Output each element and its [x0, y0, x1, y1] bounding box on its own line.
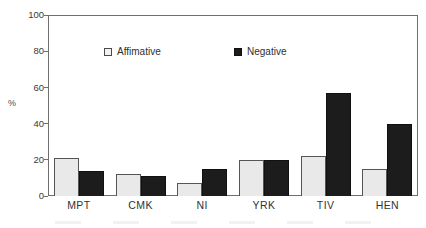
legend-entry-negative: Negative [234, 47, 286, 57]
x-axis-label-mpt: MPT [48, 199, 110, 211]
bar-group-tiv [295, 15, 357, 196]
scan-artifact [55, 221, 395, 224]
bar-affirmative-yrk [239, 160, 264, 196]
legend-label-negative: Negative [247, 47, 286, 57]
bar-negative-tiv [326, 93, 351, 196]
x-axis-label-tiv: TIV [295, 199, 357, 211]
bars-layer [48, 15, 418, 196]
legend-entry-affirmative: Affimative [104, 47, 161, 57]
x-axis-label-hen: HEN [357, 199, 419, 211]
x-axis-label-cmk: CMK [110, 199, 172, 211]
bar-group-ni [171, 15, 233, 196]
bar-affirmative-ni [177, 183, 202, 196]
legend-label-affirmative: Affimative [117, 47, 161, 57]
bar-group-yrk [233, 15, 295, 196]
x-axis-label-ni: NI [171, 199, 233, 211]
x-axis-labels: MPT CMK NI YRK TIV HEN [48, 199, 418, 217]
bar-chart-figure: % 100 80 60 40 20 0 [0, 0, 426, 228]
bar-group-cmk [110, 15, 172, 196]
bar-group-hen [357, 15, 419, 196]
chart-legend: Affimative Negative [104, 47, 324, 63]
legend-swatch-affirmative-icon [104, 48, 112, 56]
bar-affirmative-mpt [54, 158, 79, 196]
legend-swatch-negative-icon [234, 48, 242, 56]
bar-affirmative-cmk [116, 174, 141, 196]
bar-affirmative-hen [362, 169, 387, 196]
x-axis-label-yrk: YRK [233, 199, 295, 211]
y-axis-title: % [8, 98, 16, 108]
bar-negative-ni [202, 169, 227, 196]
bar-negative-cmk [141, 176, 166, 196]
bar-negative-mpt [79, 171, 104, 196]
bar-affirmative-tiv [301, 156, 326, 196]
bar-negative-yrk [264, 160, 289, 196]
bar-group-mpt [48, 15, 110, 196]
bar-negative-hen [387, 124, 412, 196]
